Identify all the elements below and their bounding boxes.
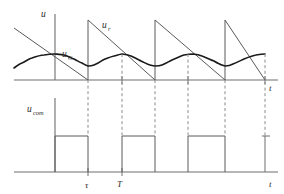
pwm-pulse-1 <box>55 136 88 172</box>
upper-plot-group <box>14 14 278 136</box>
label-uc-subscript: C <box>68 54 73 61</box>
label-uc-base: u <box>62 49 67 59</box>
lower-plot-group <box>14 98 278 176</box>
label-u: u <box>41 9 46 19</box>
label-ur-subscript: r <box>108 25 111 32</box>
label-ur-base: u <box>102 20 107 30</box>
label-tau: τ <box>85 180 89 190</box>
pwm-pulse-3 <box>188 136 225 172</box>
label-t-lower: t <box>269 179 272 189</box>
waveform-figure: u u C u r t u com τ T t <box>0 0 284 194</box>
carrier-sawtooth-ur <box>14 20 265 80</box>
label-ucom-subscript: com <box>33 109 44 116</box>
label-period-T: T <box>117 179 123 189</box>
waveform-svg: u u C u r t u com τ T t <box>0 0 284 194</box>
pwm-pulse-2 <box>122 136 155 172</box>
label-ucom-base: u <box>27 104 32 114</box>
label-t-upper: t <box>269 83 272 93</box>
